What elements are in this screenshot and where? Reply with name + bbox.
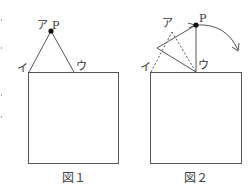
square-2: [151, 73, 242, 164]
rotated-side-2: [157, 48, 196, 72]
rotation-arrow-arc: [196, 25, 238, 50]
label-u-2: ウ: [198, 60, 209, 71]
dotted-original-left: [151, 32, 172, 72]
square-1: [29, 73, 119, 164]
label-a-2: ア: [162, 18, 173, 29]
label-p-2: P: [199, 13, 206, 24]
label-i-2: イ: [140, 62, 151, 73]
caption-2: 図２: [184, 172, 208, 184]
side-pu: [51, 31, 74, 72]
label-u-1: ウ: [76, 61, 87, 72]
label-i-1: イ: [17, 63, 28, 74]
figure-1: [29, 31, 119, 164]
caption-1: 図１: [62, 172, 86, 184]
side-pi: [29, 31, 51, 72]
dotted-original-right: [172, 32, 196, 72]
margin-marks: [1, 19, 2, 118]
label-a-1: ア: [37, 20, 48, 31]
figure-2: [151, 23, 242, 164]
label-p-1: P: [52, 20, 59, 31]
point-p-2: [193, 22, 198, 27]
